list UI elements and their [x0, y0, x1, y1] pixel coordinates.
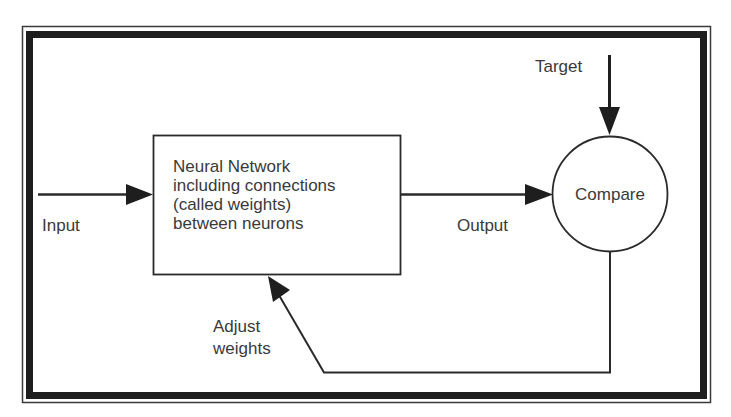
network-text-line-1: Neural Network: [173, 157, 291, 176]
adjust-label-line-1: Adjust: [213, 317, 261, 336]
input-arrowhead-icon: [126, 184, 153, 205]
target-arrow: [599, 55, 620, 135]
compare-label: Compare: [575, 185, 645, 204]
network-text-line-3: (called weights): [173, 195, 291, 214]
input-label: Input: [42, 216, 80, 235]
adjust-arrowhead-icon: [268, 276, 290, 302]
output-arrow: [400, 184, 553, 205]
neural-network-training-diagram: Neural Network including connections (ca…: [0, 0, 731, 417]
input-arrow: [38, 184, 153, 205]
neural-network-node: Neural Network including connections (ca…: [154, 136, 401, 275]
network-text-line-2: including connections: [173, 176, 336, 195]
target-arrowhead-icon: [599, 107, 620, 135]
output-label: Output: [457, 216, 508, 235]
adjust-label-line-2: weights: [212, 339, 271, 358]
network-text-line-4: between neurons: [173, 214, 303, 233]
compare-node: Compare: [553, 137, 668, 252]
output-arrowhead-icon: [525, 184, 553, 205]
target-label: Target: [535, 57, 583, 76]
